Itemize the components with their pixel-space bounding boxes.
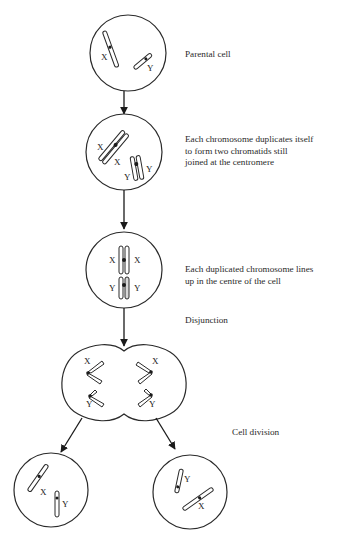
- label-y: Y: [124, 172, 131, 182]
- alignment-cell: X X Y Y: [86, 232, 162, 308]
- label-x: X: [198, 501, 205, 511]
- label-x: X: [101, 52, 108, 62]
- disjunction-cell: X Y X Y: [62, 345, 186, 421]
- arrow-right-daughter: [156, 418, 175, 449]
- chromosome-y: [55, 491, 59, 517]
- stage-label-duplication: Each chromosome duplicates itself to for…: [185, 134, 313, 169]
- daughter-cell-left: X Y: [14, 453, 88, 527]
- label-y: Y: [146, 164, 153, 174]
- label-x: X: [114, 157, 121, 167]
- parental-cell: X Y: [90, 15, 166, 91]
- label-x: X: [109, 255, 116, 265]
- stage-label-disjunction: Disjunction: [185, 315, 228, 327]
- label-x: X: [152, 356, 159, 366]
- label-y: Y: [134, 283, 141, 293]
- label-y: Y: [62, 499, 69, 509]
- stage-label-alignment: Each duplicated chromosome lines up in t…: [185, 264, 313, 287]
- label-x: X: [97, 142, 104, 152]
- stage-label-parental: Parental cell: [185, 49, 231, 61]
- arrow-left-daughter: [61, 418, 82, 452]
- daughter-cell-right: Y X: [153, 455, 227, 529]
- duplication-cell: X X Y Y: [86, 114, 162, 190]
- label-x: X: [40, 487, 47, 497]
- label-x: X: [134, 255, 141, 265]
- label-y: Y: [147, 63, 154, 73]
- label-y: Y: [149, 399, 156, 409]
- stage-label-division: Cell division: [232, 427, 279, 439]
- label-y: Y: [109, 283, 116, 293]
- label-x: X: [84, 356, 91, 366]
- label-y: Y: [184, 474, 191, 484]
- label-y: Y: [86, 399, 93, 409]
